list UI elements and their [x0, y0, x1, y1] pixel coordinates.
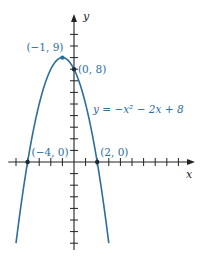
- x-intercept-left-label: (−4, 0): [32, 146, 69, 158]
- equation-label: y = −x² − 2x + 8: [92, 103, 184, 115]
- x-axis-label: x: [186, 168, 193, 181]
- y-axis-arrow-icon: [71, 14, 77, 22]
- x-intercept-right-label: (2, 0): [100, 146, 128, 158]
- y-intercept-label: (0, 8): [78, 63, 106, 75]
- x-intercept-right-point: [95, 160, 99, 164]
- x-intercept-left-point: [25, 160, 29, 164]
- vertex-label: (−1, 9): [26, 41, 63, 53]
- parabola-chart: (−1, 9)(0, 8)(−4, 0)(2, 0) x y y = −x² −…: [0, 0, 202, 262]
- y-intercept-point: [72, 67, 76, 71]
- vertex-point: [60, 55, 64, 59]
- y-axis-label: y: [82, 10, 90, 23]
- x-axis-arrow-icon: [187, 159, 195, 165]
